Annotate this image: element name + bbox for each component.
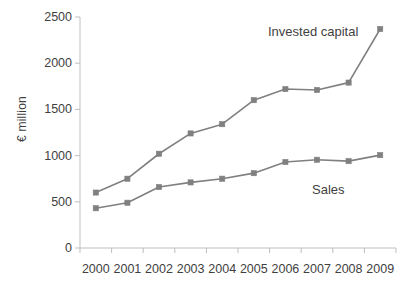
- data-point-marker: [93, 190, 98, 195]
- data-point-marker: [283, 159, 288, 164]
- data-point-marker: [251, 171, 256, 176]
- line-chart: € million 0 500 1000 1500 2000 2500 2000…: [0, 0, 410, 292]
- data-point-marker: [378, 26, 383, 31]
- data-point-marker: [125, 200, 130, 205]
- series-label-invested-capital: Invested capital: [268, 24, 358, 39]
- data-point-marker: [283, 86, 288, 91]
- data-point-marker: [220, 176, 225, 181]
- data-point-marker: [93, 206, 98, 211]
- data-point-marker: [188, 131, 193, 136]
- data-point-marker: [314, 157, 319, 162]
- data-point-marker: [156, 184, 161, 189]
- data-point-marker: [314, 87, 319, 92]
- data-point-marker: [220, 122, 225, 127]
- data-point-marker: [346, 80, 351, 85]
- series-line-invested-capital: [96, 29, 380, 193]
- data-point-marker: [346, 159, 351, 164]
- data-point-marker: [188, 180, 193, 185]
- data-point-marker: [156, 151, 161, 156]
- data-point-marker: [251, 98, 256, 103]
- series-label-sales: Sales: [312, 182, 345, 197]
- plot-area: [0, 0, 410, 292]
- data-point-marker: [378, 153, 383, 158]
- data-point-marker: [125, 176, 130, 181]
